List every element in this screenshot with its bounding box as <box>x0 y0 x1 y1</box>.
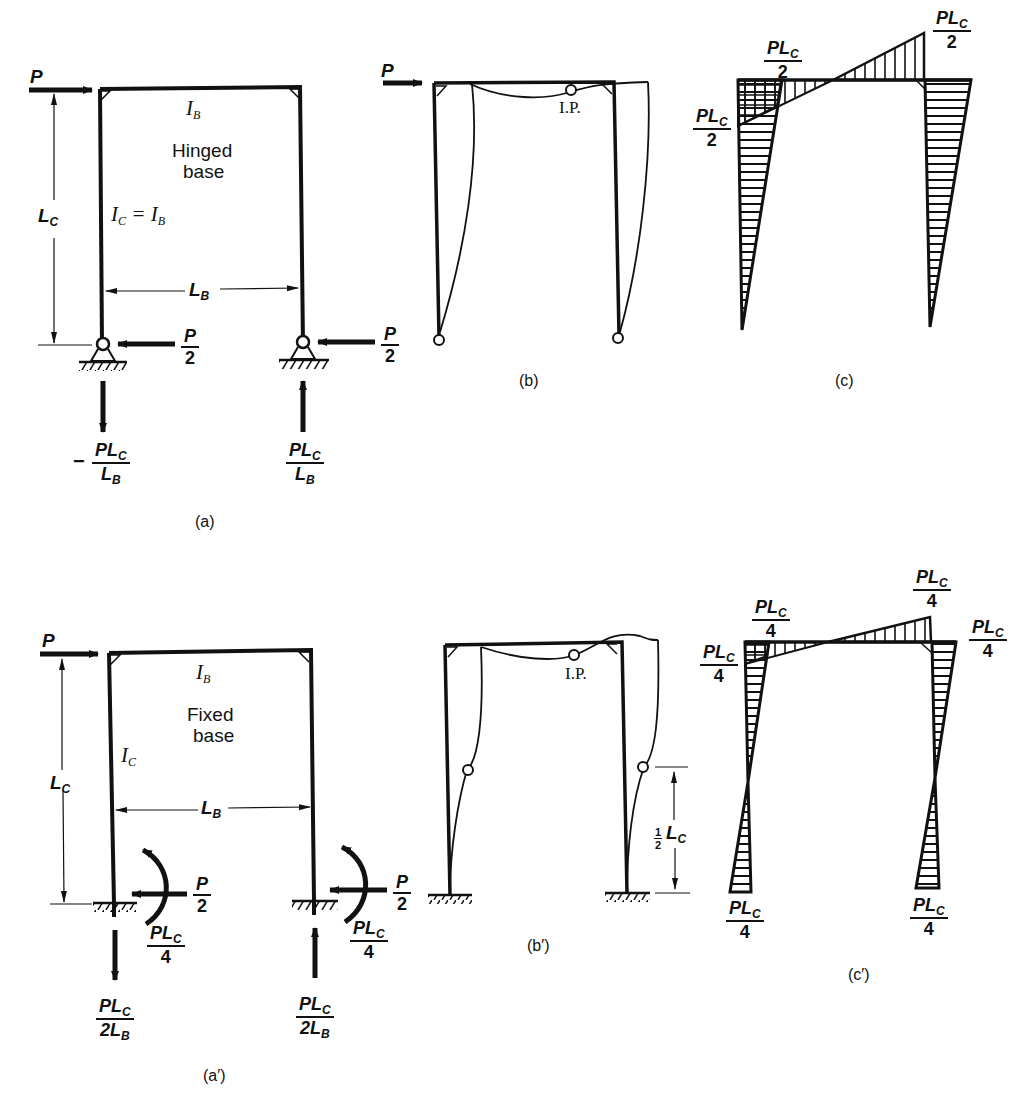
denominator: 2 <box>397 894 407 914</box>
symbol: L <box>38 205 50 226</box>
base-type-label-line2: base <box>193 725 234 747</box>
symbol: L <box>50 772 62 793</box>
denominator: L <box>101 464 112 484</box>
moment-label-base-left: PLC4 <box>726 898 764 942</box>
span-dimension-label: LB <box>201 797 221 819</box>
subscript: C <box>752 907 761 921</box>
caption-b: (b) <box>519 372 539 390</box>
subscript: C <box>778 606 787 620</box>
numerator: PL <box>913 895 936 915</box>
moment-label-top-right-column: PLC4 <box>969 617 1007 661</box>
subscript: C <box>118 449 127 463</box>
subscript: C <box>322 1003 331 1017</box>
numerator: P <box>181 326 199 348</box>
denominator: 4 <box>927 591 937 611</box>
load-label: P <box>30 66 43 88</box>
subscript: B <box>158 214 165 228</box>
denominator: 2 <box>655 839 661 851</box>
height-dimension-label: LC <box>38 205 58 227</box>
subscript: C <box>62 782 71 796</box>
moment-label-top-right: PLC2 <box>933 8 971 52</box>
moment-label-top-right-beam: PLC4 <box>913 567 951 611</box>
symbol: L <box>201 797 213 818</box>
symbol: I <box>121 743 128 767</box>
right-vertical-reaction-label: PLCLB <box>286 440 324 486</box>
inflection-point-label: I.P. <box>565 664 587 684</box>
subscript: B <box>193 108 200 122</box>
caption-a-prime: (a′) <box>203 1067 226 1085</box>
subscript: C <box>678 832 687 846</box>
numerator: PL <box>289 440 312 460</box>
moment-label-top-left-column: PLC4 <box>700 642 738 686</box>
numerator: PL <box>696 106 719 126</box>
subscript: C <box>376 927 385 941</box>
numerator: PL <box>972 617 995 637</box>
panel-b-prime-deflected-shape <box>428 635 690 904</box>
subscript: B <box>306 473 315 487</box>
subscript: C <box>122 1005 131 1019</box>
numerator: P <box>381 324 399 346</box>
numerator: P <box>193 874 211 896</box>
denominator: 4 <box>364 942 374 962</box>
denominator: 4 <box>161 947 171 967</box>
numerator: PL <box>767 38 790 58</box>
height-dimension-label: LC <box>50 772 70 794</box>
denominator: 4 <box>924 919 934 939</box>
caption-c: (c) <box>835 372 854 390</box>
subscript: C <box>173 932 182 946</box>
numerator: 1 <box>654 826 662 839</box>
subscript: B <box>201 289 210 303</box>
subscript: C <box>995 626 1004 640</box>
left-vertical-reaction-label: PLC2LB <box>96 996 134 1042</box>
subscript: C <box>719 115 728 129</box>
subscript: C <box>128 755 136 769</box>
subscript: B <box>112 473 121 487</box>
load-label: P <box>42 630 55 652</box>
denominator: 4 <box>740 922 750 942</box>
beam-inertia-label: IB <box>196 660 210 685</box>
moment-label-top-left-beam: PLC4 <box>752 597 790 641</box>
symbol: L <box>666 822 678 843</box>
denominator: L <box>295 464 306 484</box>
moment-arc-icon <box>342 847 366 922</box>
symbol: = I <box>131 202 157 226</box>
right-horizontal-reaction-label: P2 <box>393 872 411 914</box>
numerator: P <box>393 872 411 894</box>
moment-arc-icon <box>143 850 166 924</box>
base-type-label-line2: base <box>183 161 224 183</box>
numerator: PL <box>150 923 173 943</box>
column-inertia-label: IC <box>121 743 136 768</box>
hinge-icon <box>97 338 109 350</box>
inflection-point-marker <box>566 85 576 95</box>
moment-label-top-left-beam: PLC2 <box>764 38 802 82</box>
right-horizontal-reaction-label: P2 <box>381 324 399 366</box>
column-inertia-label: IC = IB <box>111 202 165 227</box>
load-label: P <box>381 60 394 82</box>
subscript: C <box>959 17 968 31</box>
span-dimension-label: LB <box>189 279 209 301</box>
caption-a: (a) <box>195 513 215 531</box>
denominator: 4 <box>983 641 993 661</box>
numerator: PL <box>95 440 118 460</box>
symbol: I <box>111 202 118 226</box>
subscript: B <box>203 672 210 686</box>
denominator: 2 <box>197 896 207 916</box>
denominator: 2 <box>385 346 395 366</box>
left-moment-reaction-label: PLC4 <box>147 923 185 967</box>
subscript: C <box>312 449 321 463</box>
denominator: 4 <box>766 621 776 641</box>
panel-a-hinged-frame <box>29 87 375 432</box>
half-fraction: 12 <box>654 826 662 851</box>
panel-b-deflected-shape <box>383 82 649 345</box>
denominator: 2 <box>707 130 717 150</box>
symbol: I <box>186 96 193 120</box>
numerator: PL <box>729 898 752 918</box>
subscript: B <box>213 807 222 821</box>
symbol: I <box>196 660 203 684</box>
negative-sign: − <box>73 450 85 473</box>
denominator: 2L <box>300 1018 321 1038</box>
denominator: 2 <box>185 348 195 368</box>
panel-c-prime-moment-diagram <box>730 617 956 892</box>
right-vertical-reaction-label: PLC2LB <box>296 994 334 1040</box>
inflection-point-label: I.P. <box>559 98 581 118</box>
